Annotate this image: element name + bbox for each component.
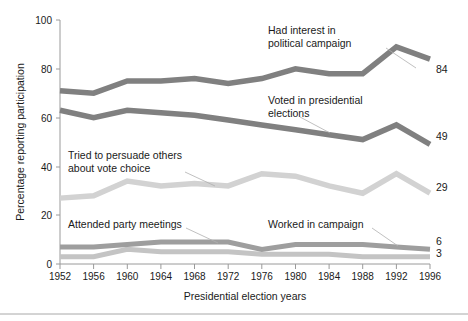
x-tick-1952: 1952 xyxy=(49,271,72,282)
y-tick-100: 100 xyxy=(35,15,52,26)
annotation-persuade-line1: Tried to persuade others xyxy=(68,149,182,161)
annotation-persuade: Tried to persuade others about vote choi… xyxy=(68,149,182,174)
x-tick-1968: 1968 xyxy=(183,271,206,282)
y-tick-20: 20 xyxy=(41,210,53,221)
x-tick-1984: 1984 xyxy=(318,271,341,282)
x-tick-1988: 1988 xyxy=(352,271,375,282)
chart-figure: 100 80 60 40 20 0 Percentage reporting p… xyxy=(0,0,468,321)
end-label-had-interest: 84 xyxy=(436,63,448,75)
end-label-voted: 49 xyxy=(436,130,448,142)
annotation-had-interest-line1: Had interest in xyxy=(268,24,336,36)
series-line-voted-in-presidential-elections xyxy=(60,110,430,144)
y-tick-60: 60 xyxy=(41,113,53,124)
annotation-voted-line1: Voted in presidential xyxy=(268,94,363,106)
annotation-voted-line2: elections xyxy=(268,107,309,119)
y-axis-tick-labels: 100 80 60 40 20 0 xyxy=(35,15,52,270)
series-line-attended-party-meetings xyxy=(60,242,430,249)
x-tick-1964: 1964 xyxy=(150,271,173,282)
x-tick-1972: 1972 xyxy=(217,271,240,282)
annotation-worked-in-campaign: Worked in campaign xyxy=(268,218,364,230)
x-tick-1996: 1996 xyxy=(419,271,442,282)
end-label-worked: 3 xyxy=(436,247,442,259)
series-line-had-interest xyxy=(60,47,430,93)
y-tick-marks xyxy=(56,20,60,264)
annotation-had-interest: Had interest in political campaign xyxy=(268,24,352,49)
y-tick-40: 40 xyxy=(41,162,53,173)
annotation-voted: Voted in presidential elections xyxy=(268,94,363,119)
x-tick-1956: 1956 xyxy=(82,271,105,282)
x-tick-1992: 1992 xyxy=(385,271,408,282)
y-tick-80: 80 xyxy=(41,64,53,75)
series-line-worked-in-campaign xyxy=(60,249,430,256)
annotation-attended-party-meetings: Attended party meetings xyxy=(68,218,182,230)
annotation-leaders xyxy=(185,48,416,246)
y-axis-title: Percentage reporting participation xyxy=(14,63,26,221)
end-label-attended: 6 xyxy=(436,235,442,247)
end-label-persuade: 29 xyxy=(436,181,448,193)
x-tick-1976: 1976 xyxy=(251,271,274,282)
y-tick-0: 0 xyxy=(46,259,52,270)
x-tick-marks xyxy=(60,264,430,269)
x-tick-1980: 1980 xyxy=(284,271,307,282)
line-chart: 100 80 60 40 20 0 Percentage reporting p… xyxy=(0,0,468,321)
annotation-persuade-line2: about vote choice xyxy=(68,162,150,174)
x-axis-tick-labels: 1952 1956 1960 1964 1968 1972 1976 1980 … xyxy=(49,271,442,282)
x-tick-1960: 1960 xyxy=(116,271,139,282)
x-axis-title: Presidential election years xyxy=(184,290,307,302)
series-line-tried-to-persuade xyxy=(60,174,430,198)
annotation-had-interest-line2: political campaign xyxy=(268,37,352,49)
